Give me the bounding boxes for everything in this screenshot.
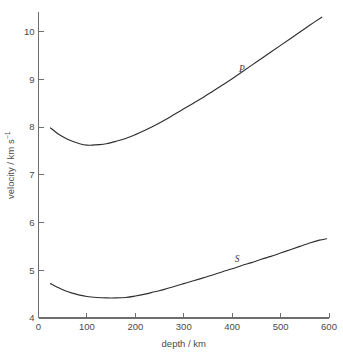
curve-p-wave <box>51 17 322 145</box>
x-tick-label: 200 <box>127 321 143 332</box>
x-tick-label: 400 <box>224 321 240 332</box>
tick-labels: 010020030040050060045678910 <box>24 26 337 332</box>
x-tick-label: 100 <box>79 321 95 332</box>
x-tick-label: 300 <box>176 321 192 332</box>
y-tick-label: 4 <box>29 312 34 323</box>
curve-label-s: S <box>235 254 240 264</box>
axes <box>39 12 330 318</box>
curve-label-p: P <box>238 64 245 74</box>
y-tick-label: 10 <box>24 26 35 37</box>
y-axis-title: velocity / km s−1 <box>4 131 16 199</box>
y-tick-label: 7 <box>29 169 34 180</box>
x-tick-label: 500 <box>273 321 289 332</box>
x-axis-title: depth / km <box>162 338 206 349</box>
x-tick-label: 600 <box>321 321 337 332</box>
curve-annotations: PS <box>235 64 245 264</box>
chart-plot-area: 010020030040050060045678910 PS depth / k… <box>0 0 343 356</box>
tick-marks <box>39 32 330 319</box>
curve-s-wave <box>51 239 327 298</box>
y-tick-label: 9 <box>29 74 34 85</box>
y-tick-label: 5 <box>29 265 34 276</box>
y-tick-label: 6 <box>29 217 34 228</box>
seismic-velocity-chart: 010020030040050060045678910 PS depth / k… <box>0 0 343 356</box>
y-tick-label: 8 <box>29 121 34 132</box>
data-curves <box>51 17 327 298</box>
x-tick-label: 0 <box>36 321 41 332</box>
